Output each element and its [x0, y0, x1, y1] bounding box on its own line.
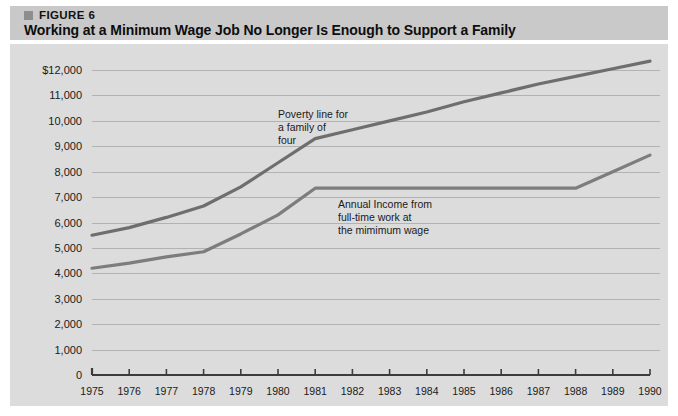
poverty-line-annotation: Poverty line for a family of four [278, 108, 348, 147]
figure-title: Working at a Minimum Wage Job No Longer … [24, 22, 516, 38]
figure-label: FIGURE 6 [39, 9, 95, 21]
chart-plot-area: 01,0002,0003,0004,0005,0006,0007,0008,00… [10, 44, 668, 406]
figure-root: FIGURE 6 Working at a Minimum Wage Job N… [0, 0, 678, 416]
minimum-wage-annotation: Annual Income from full-time work at the… [338, 198, 432, 237]
chart-plot-panel: 01,0002,0003,0004,0005,0006,0007,0008,00… [10, 44, 668, 406]
square-bullet-icon [24, 11, 33, 20]
figure-label-row: FIGURE 6 [24, 9, 95, 21]
